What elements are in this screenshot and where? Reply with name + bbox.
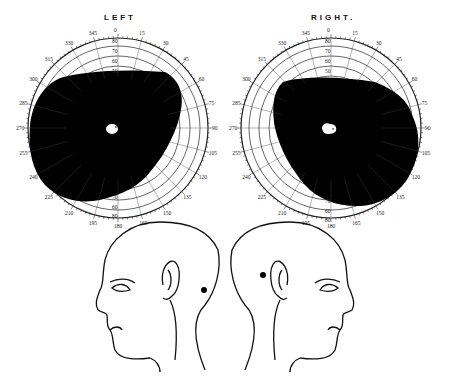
svg-text:180: 180 <box>114 223 123 229</box>
svg-text:70: 70 <box>325 198 331 204</box>
svg-text:15: 15 <box>139 30 145 36</box>
svg-text:270: 270 <box>229 125 238 131</box>
svg-text:300: 300 <box>242 76 251 82</box>
svg-text:30: 30 <box>163 40 169 46</box>
svg-text:240: 240 <box>242 174 251 180</box>
svg-text:105: 105 <box>422 150 431 156</box>
svg-text:75: 75 <box>422 100 428 106</box>
svg-text:15: 15 <box>352 30 358 36</box>
svg-text:135: 135 <box>396 194 405 200</box>
svg-text:70: 70 <box>325 48 331 54</box>
svg-text:330: 330 <box>278 40 287 46</box>
right-scotoma <box>273 78 418 207</box>
svg-text:80: 80 <box>112 213 118 219</box>
svg-text:70: 70 <box>112 48 118 54</box>
svg-text:300: 300 <box>29 76 37 82</box>
svg-text:315: 315 <box>258 56 267 62</box>
svg-text:45: 45 <box>396 56 402 62</box>
svg-text:30: 30 <box>376 40 382 46</box>
svg-text:225: 225 <box>45 194 54 200</box>
svg-text:90: 90 <box>425 125 431 131</box>
svg-text:60: 60 <box>112 58 118 64</box>
svg-text:210: 210 <box>278 210 287 216</box>
svg-text:240: 240 <box>29 174 37 180</box>
svg-text:105: 105 <box>209 150 218 156</box>
svg-text:270: 270 <box>16 125 25 131</box>
svg-text:60: 60 <box>412 76 418 82</box>
svg-text:80: 80 <box>112 38 118 44</box>
svg-text:285: 285 <box>19 100 28 106</box>
svg-text:50: 50 <box>112 68 118 74</box>
left-lesion-dot <box>201 287 207 293</box>
svg-text:90: 90 <box>212 125 218 131</box>
left-blind-spot <box>106 124 118 134</box>
svg-text:120: 120 <box>199 174 208 180</box>
svg-text:330: 330 <box>65 40 74 46</box>
svg-text:0: 0 <box>327 27 330 33</box>
svg-text:165: 165 <box>352 220 361 226</box>
svg-text:120: 120 <box>412 174 421 180</box>
svg-text:345: 345 <box>302 30 311 36</box>
perimetry-diagram: 80 70 60 50 70 60 80 80 70 60 50 70 60 8… <box>0 0 449 383</box>
svg-text:210: 210 <box>65 210 74 216</box>
svg-text:0: 0 <box>114 27 117 33</box>
svg-text:50: 50 <box>325 68 331 74</box>
svg-text:315: 315 <box>45 56 54 62</box>
right-facing-head <box>231 222 354 372</box>
svg-text:195: 195 <box>89 220 98 226</box>
svg-text:60: 60 <box>325 58 331 64</box>
svg-text:255: 255 <box>19 150 28 156</box>
svg-text:60: 60 <box>199 76 205 82</box>
svg-text:75: 75 <box>209 100 215 106</box>
svg-text:225: 225 <box>258 194 267 200</box>
svg-text:70: 70 <box>112 194 118 200</box>
svg-text:45: 45 <box>183 56 189 62</box>
svg-text:60: 60 <box>112 204 118 210</box>
svg-text:150: 150 <box>163 210 172 216</box>
svg-text:285: 285 <box>232 100 241 106</box>
svg-text:135: 135 <box>183 194 192 200</box>
svg-text:150: 150 <box>376 210 385 216</box>
svg-text:255: 255 <box>232 150 241 156</box>
svg-text:60: 60 <box>325 208 331 214</box>
svg-text:80: 80 <box>325 38 331 44</box>
left-facing-head <box>96 222 219 372</box>
svg-text:345: 345 <box>89 30 98 36</box>
svg-text:180: 180 <box>327 223 336 229</box>
right-lesion-dot <box>260 272 266 278</box>
